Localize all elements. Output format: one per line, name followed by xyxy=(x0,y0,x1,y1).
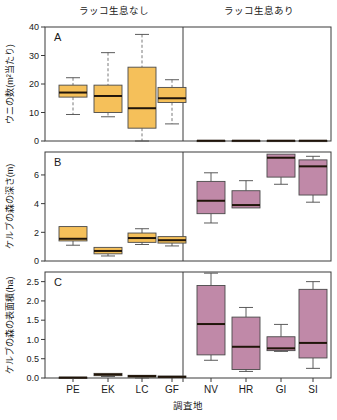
box-ek-b xyxy=(94,247,122,256)
panel-a: 010203040Aウニの数(m²当たり) xyxy=(4,22,331,146)
box-lc-a xyxy=(128,34,156,141)
y-tick-label: 0.5 xyxy=(26,354,39,364)
box-body xyxy=(299,289,327,358)
box-si-a xyxy=(299,140,327,141)
y-axis-title-b: ケルプの森の深さ(m) xyxy=(4,164,15,250)
box-body xyxy=(232,317,260,369)
box-si-b xyxy=(299,156,327,202)
boxplot-figure: ラッコ生息なしラッコ生息あり010203040Aウニの数(m²当たり)0246B… xyxy=(0,0,337,420)
x-tick-label-gf: GF xyxy=(165,384,179,395)
box-si-c xyxy=(299,282,327,369)
box-hr-a xyxy=(232,140,260,141)
x-tick-label-pe: PE xyxy=(66,384,80,395)
box-nv-c xyxy=(197,273,225,360)
x-axis-title: 調査地 xyxy=(173,400,203,411)
panel-b: 0246Bケルプの森の深さ(m) xyxy=(4,152,331,266)
y-tick-label: 20 xyxy=(29,79,39,89)
box-lc-c xyxy=(128,375,156,378)
box-body xyxy=(197,285,225,354)
figure-canvas: ラッコ生息なしラッコ生息あり010203040Aウニの数(m²当たり)0246B… xyxy=(0,0,337,420)
box-gi-b xyxy=(267,154,295,184)
box-hr-b xyxy=(232,181,260,208)
y-axis-title-a: ウニの数(m²当たり) xyxy=(4,44,15,124)
box-gi-a xyxy=(267,140,295,141)
box-body xyxy=(158,87,186,102)
panel-letter-b: B xyxy=(54,156,61,168)
y-tick-label: 0.0 xyxy=(26,373,39,383)
x-tick-label-nv: NV xyxy=(204,384,218,395)
panel-letter-a: A xyxy=(54,31,62,43)
box-ek-a xyxy=(94,53,122,117)
y-tick-label: 1.5 xyxy=(26,315,39,325)
group-header-left: ラッコ生息なし xyxy=(79,5,149,16)
y-axis-title-c: ケルプの森の表面積(ha) xyxy=(4,276,15,373)
y-tick-label: 2.0 xyxy=(26,296,39,306)
group-header-right: ラッコ生息あり xyxy=(224,5,294,16)
y-tick-label: 10 xyxy=(29,108,39,118)
box-gi-c xyxy=(267,324,295,351)
panel-letter-c: C xyxy=(54,276,62,288)
box-hr-c xyxy=(232,307,260,371)
box-nv-a xyxy=(197,140,225,141)
y-tick-label: 4 xyxy=(34,199,39,209)
box-lc-b xyxy=(128,229,156,245)
x-tick-label-lc: LC xyxy=(136,384,149,395)
y-tick-label: 0 xyxy=(34,256,39,266)
x-tick-label-gi: GI xyxy=(276,384,287,395)
box-body xyxy=(197,181,225,213)
panel-c: 0.00.51.01.52.02.5Cケルプの森の表面積(ha) xyxy=(4,272,331,383)
box-body xyxy=(94,85,122,112)
box-pe-a xyxy=(59,78,87,115)
box-gf-a xyxy=(158,80,186,124)
box-body xyxy=(299,160,327,195)
panel-frame-a xyxy=(45,27,331,141)
box-body xyxy=(128,67,156,128)
box-pe-b xyxy=(59,227,87,246)
y-tick-label: 0 xyxy=(34,136,39,146)
box-gf-c xyxy=(158,376,186,378)
box-ek-c xyxy=(94,373,122,376)
x-tick-label-hr: HR xyxy=(239,384,253,395)
y-tick-label: 1.0 xyxy=(26,335,39,345)
y-tick-label: 40 xyxy=(29,22,39,32)
y-tick-label: 2 xyxy=(34,228,39,238)
y-tick-label: 2.5 xyxy=(26,277,39,287)
box-body xyxy=(59,85,87,97)
box-nv-b xyxy=(197,173,225,223)
y-tick-label: 6 xyxy=(34,170,39,180)
x-tick-label-ek: EK xyxy=(101,384,115,395)
box-gf-b xyxy=(158,237,186,246)
panel-frame-c xyxy=(45,272,331,378)
y-tick-label: 30 xyxy=(29,51,39,61)
x-tick-label-si: SI xyxy=(308,384,317,395)
